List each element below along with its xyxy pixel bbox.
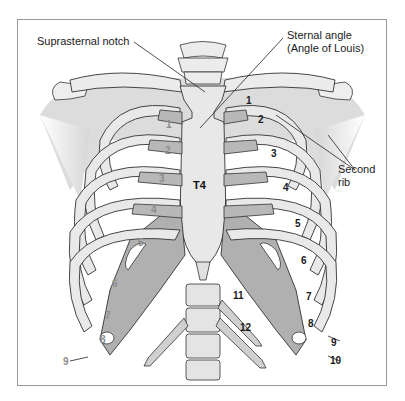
rib-number-left-4: 4 xyxy=(151,204,157,215)
label-angle-of-louis: (Angle of Louis) xyxy=(287,42,364,55)
rib-number-right-7: 7 xyxy=(306,291,312,302)
lower-spine xyxy=(186,284,220,380)
rib-number-left-2: 2 xyxy=(165,145,171,156)
rib-number-left-3: 3 xyxy=(159,173,165,184)
rib-number-left-9: 9 xyxy=(63,356,69,367)
rib-number-right-6: 6 xyxy=(301,255,307,266)
rib-number-left-8: 8 xyxy=(100,334,106,345)
rib-number-right-4: 4 xyxy=(283,182,289,193)
rib-number-right-1: 1 xyxy=(246,95,252,106)
label-sternal-angle: Sternal angle xyxy=(287,29,352,42)
label-suprasternal-notch: Suprasternal notch xyxy=(37,35,129,48)
rib-number-right-12: 12 xyxy=(240,322,251,333)
rib-number-right-11: 11 xyxy=(233,290,244,301)
rib-number-left-7: 7 xyxy=(105,310,111,321)
rib-number-right-8: 8 xyxy=(308,318,314,329)
label-second-rib: Second xyxy=(338,163,375,176)
left-rib-12 xyxy=(144,318,188,366)
rib-number-right-3: 3 xyxy=(271,148,277,159)
rib-number-left-6: 6 xyxy=(112,278,118,289)
xiphoid-process xyxy=(196,262,210,280)
rib-number-right-9: 9 xyxy=(331,337,337,348)
label-t4-vertebra: T4 xyxy=(193,179,206,191)
rib-number-left-1: 1 xyxy=(166,119,172,130)
rib-number-right-5: 5 xyxy=(295,218,301,229)
thoracic-cage-illustration xyxy=(0,0,405,401)
rib-number-right-10: 10 xyxy=(330,355,341,366)
cervical-spine xyxy=(178,42,228,85)
label-second-rib-2: rib xyxy=(338,176,350,189)
rib-number-right-2: 2 xyxy=(258,114,264,125)
rib-number-left-5: 5 xyxy=(138,237,144,248)
